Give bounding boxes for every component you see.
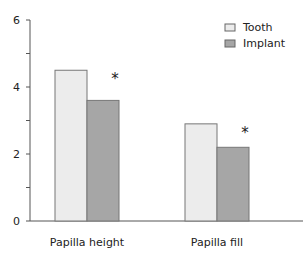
x-tick-label: Papilla fill [191,236,243,249]
y-tick-label: 6 [13,14,20,27]
significance-marker: * [241,124,249,142]
bar-implant [87,100,119,221]
bar-chart: 0246Papilla height*Papilla fill*ToothImp… [0,0,308,254]
chart: 0246Papilla height*Papilla fill*ToothImp… [0,0,308,254]
legend-swatch [225,24,235,31]
x-tick-label: Papilla height [50,236,125,249]
legend-label: Implant [243,37,286,50]
bar-implant [217,147,249,221]
bar-tooth [185,124,217,221]
bar-tooth [55,70,87,221]
y-tick-label: 4 [13,81,20,94]
significance-marker: * [111,70,119,88]
legend-swatch [225,40,235,47]
legend-label: Tooth [242,21,273,34]
y-tick-label: 0 [13,215,20,228]
y-tick-label: 2 [13,148,20,161]
